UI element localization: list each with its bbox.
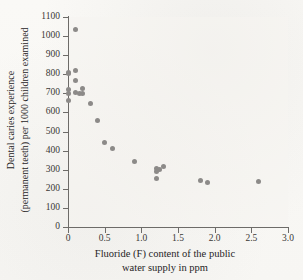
y-axis-title: Dental caries experience (permanent teet…	[0, 0, 34, 240]
y-tick-mark	[63, 55, 68, 56]
data-point	[66, 71, 71, 76]
x-axis-title-line-1: Fluoride (F) content of the public	[40, 247, 290, 261]
data-point	[80, 91, 85, 96]
data-point	[88, 101, 93, 106]
y-tick-mark	[63, 36, 68, 37]
y-axis-title-line-2: (permanent teeth) per 1000 children exam…	[18, 27, 31, 212]
data-point	[154, 176, 159, 181]
y-axis-line	[68, 16, 69, 228]
y-tick-mark	[63, 170, 68, 171]
data-point	[73, 68, 78, 73]
data-point	[80, 86, 85, 91]
x-tick-label: 0	[53, 234, 83, 243]
data-point	[102, 140, 107, 145]
y-tick-mark	[63, 151, 68, 152]
x-tick-label: 3.0	[273, 234, 303, 243]
x-tick-label: 0.5	[90, 234, 120, 243]
x-tick-label: 1.0	[126, 234, 156, 243]
x-tick-label: 2.5	[236, 234, 266, 243]
data-point	[198, 178, 203, 183]
x-tick-label: 2.0	[200, 234, 230, 243]
y-tick-mark	[63, 189, 68, 190]
y-axis-title-line-1: Dental caries experience	[4, 71, 17, 169]
y-tick-mark	[63, 208, 68, 209]
data-point	[95, 118, 100, 123]
data-point	[161, 164, 166, 169]
x-axis-title: Fluoride (F) content of the public water…	[40, 247, 290, 275]
data-point	[66, 98, 71, 103]
y-tick-mark	[63, 132, 68, 133]
x-tick-label: 1.5	[163, 234, 193, 243]
plot-area	[68, 17, 288, 227]
x-axis-title-line-2: water supply in ppm	[40, 261, 290, 275]
y-tick-mark	[63, 17, 68, 18]
y-tick-mark	[63, 112, 68, 113]
data-point	[66, 91, 71, 96]
data-point	[110, 146, 115, 151]
data-point	[132, 159, 137, 164]
scatter-chart-figure: 010020030040050060070080090010001100 00.…	[0, 0, 303, 280]
